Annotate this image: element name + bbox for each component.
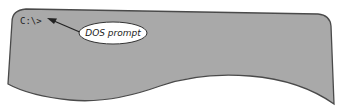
- dos-screen-diagram: C:\> DOS prompt: [0, 0, 337, 112]
- callout-label: DOS prompt: [85, 28, 141, 38]
- screen-panel: [8, 9, 334, 104]
- dos-prompt-text: C:\>: [20, 16, 42, 26]
